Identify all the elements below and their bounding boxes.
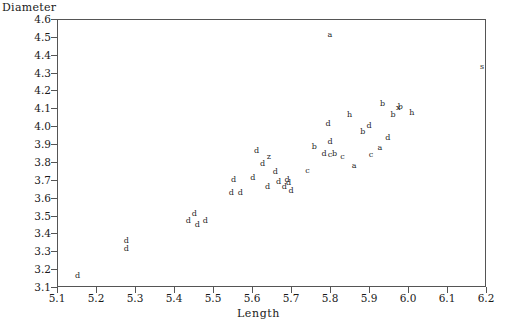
data-point: d [288,187,293,195]
x-tick-label: 5.3 [127,292,144,304]
data-point: b [332,150,337,158]
data-point: d [366,122,371,130]
data-point: h [409,109,414,117]
y-tick-label: 4.5 [34,31,51,43]
data-point: c [305,167,309,175]
data-point: c [340,153,344,161]
y-tick-label: 4.3 [34,67,51,79]
x-tick-mark [252,287,253,293]
x-tick-label: 5.5 [205,292,222,304]
x-axis-title: Length [0,307,517,320]
data-point: d [385,134,390,142]
data-point: h [347,111,352,119]
data-point: d [265,183,270,191]
x-tick-mark [369,287,370,293]
plot-data-area: dddddddddddddddddddzdcbdcbdcadhabdcabdbx… [57,19,486,287]
data-point: d [260,160,265,168]
data-point: d [124,245,129,253]
y-tick-label: 3.7 [34,174,51,186]
data-point: d [250,174,255,182]
y-tick-label: 3.8 [34,156,51,168]
y-tick-label: 3.3 [34,245,51,257]
x-tick-label: 5.9 [361,292,378,304]
x-tick-mark [96,287,97,293]
data-point: b [380,100,385,108]
data-point: s [480,63,484,71]
x-tick-mark [135,287,136,293]
data-point: c [369,151,373,159]
x-tick-mark [291,287,292,293]
x-tick-mark [57,287,58,293]
scatter-plot-figure: Diameter 3.13.23.33.43.53.63.73.83.94.04… [0,0,517,328]
data-point: d [327,138,332,146]
data-point: d [195,221,200,229]
x-tick-mark [447,287,448,293]
data-point: d [186,217,191,225]
x-tick-mark [174,287,175,293]
data-point: b [312,143,317,151]
x-tick-label: 5.1 [49,292,66,304]
y-tick-label: 4.4 [34,49,51,61]
data-point: a [378,144,383,152]
data-point: d [276,178,281,186]
y-tick-label: 3.2 [34,263,51,275]
data-point: d [203,217,208,225]
data-point: d [325,120,330,128]
data-point: b [391,111,396,119]
data-point: d [254,147,259,155]
x-tick-mark [213,287,214,293]
data-point: d [75,272,80,280]
y-tick-label: 3.6 [34,192,51,204]
data-point: d [231,176,236,184]
x-tick-label: 5.7 [283,292,300,304]
x-tick-mark [408,287,409,293]
y-tick-label: 3.4 [34,227,51,239]
data-point: d [192,210,197,218]
y-tick-label: 4.0 [34,120,51,132]
y-tick-label: 4.2 [34,84,51,96]
data-point: d [273,168,278,176]
x-tick-label: 5.8 [322,292,339,304]
x-tick-mark [486,287,487,293]
x-tick-label: 6.1 [439,292,456,304]
x-tick-label: 5.4 [166,292,183,304]
data-point: d [238,189,243,197]
y-tick-label: 3.9 [34,138,51,150]
data-point: b [398,103,403,111]
y-tick-label: 4.1 [34,102,51,114]
data-point: a [352,162,357,170]
y-tick-label: 3.5 [34,210,51,222]
x-tick-label: 5.2 [88,292,105,304]
data-point: d [229,189,234,197]
x-tick-label: 6.2 [478,292,495,304]
data-point: a [328,31,333,39]
data-point: z [267,153,271,161]
y-tick-label: 4.6 [34,13,51,25]
x-tick-label: 6.0 [400,292,417,304]
x-tick-label: 5.6 [244,292,261,304]
x-tick-mark [330,287,331,293]
data-point: d [322,150,327,158]
data-point: b [360,128,365,136]
